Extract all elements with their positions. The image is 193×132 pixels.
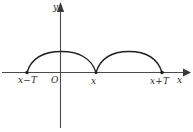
tick-label-x-plus-T: x+T bbox=[150, 77, 169, 86]
tick-label-x-minus-T: x−T bbox=[18, 76, 37, 85]
curve-arch-left bbox=[27, 52, 96, 73]
node-dot-x-plus-T bbox=[160, 71, 164, 75]
x-axis-arrow-icon bbox=[183, 69, 191, 77]
curve-arch-right bbox=[96, 52, 162, 73]
math-figure: y O x−T x x+T x bbox=[0, 0, 193, 132]
origin-label: O bbox=[51, 76, 59, 85]
tick-label-x: x bbox=[91, 77, 96, 86]
figure-canvas bbox=[0, 0, 193, 132]
y-axis-label: y bbox=[53, 3, 58, 12]
x-axis-label: x bbox=[177, 76, 182, 85]
node-dot-x-minus-T bbox=[25, 71, 28, 74]
node-dot-x bbox=[95, 71, 98, 74]
